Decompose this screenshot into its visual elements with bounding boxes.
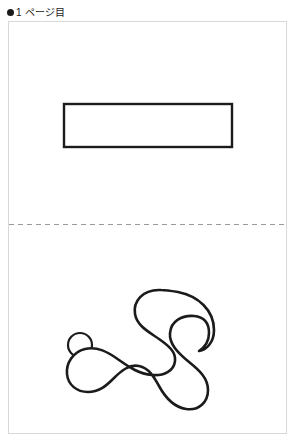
filled-circle-bullet-icon xyxy=(7,9,14,16)
page-canvas[interactable] xyxy=(8,21,287,434)
blob-outline-shape[interactable] xyxy=(67,290,214,409)
page-title: 1 ページ目 xyxy=(16,7,65,19)
page-preview-app: 1 ページ目 xyxy=(0,0,297,443)
page-header: 1 ページ目 xyxy=(7,5,65,20)
bottom-half-shape-layer xyxy=(9,22,287,434)
